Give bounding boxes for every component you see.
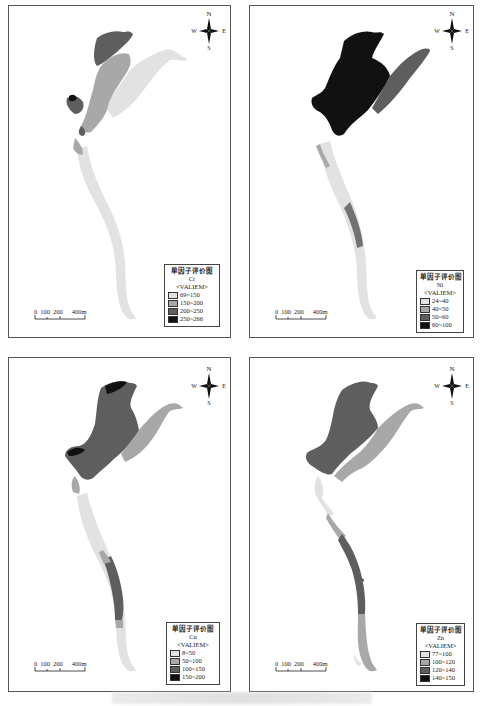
svg-text:N: N xyxy=(206,365,211,373)
svg-text:W: W xyxy=(434,28,440,34)
legend-class: 140~150 xyxy=(420,674,461,682)
svg-text:E: E xyxy=(465,28,469,34)
scale-bar: 0100200400m xyxy=(34,308,87,320)
legend-field: <VALIEM> xyxy=(420,642,461,650)
legend-element: Cr xyxy=(168,275,216,283)
svg-text:W: W xyxy=(191,383,197,389)
svg-text:E: E xyxy=(465,383,469,389)
legend-class: 50~100 xyxy=(170,657,216,665)
legend-class: 200~250 xyxy=(168,307,216,315)
legend-class: 40~50 xyxy=(420,305,460,313)
svg-text:W: W xyxy=(434,383,440,389)
legend-class: 50~60 xyxy=(420,313,460,321)
legend-element: Zn xyxy=(420,634,461,642)
svg-text:S: S xyxy=(450,45,453,51)
map-panel-ni: N W E S 单因子评价图 Ni <VALIEM> 24~40 40~50 5… xyxy=(249,5,474,338)
legend-cu: 单因子评价图 Cu <VALIEM> 8~50 50~100 100~150 1… xyxy=(166,622,220,685)
legend-title: 单因子评价图 xyxy=(420,273,460,281)
legend-cr: 单因子评价图 Cr <VALIEM> 69~150 150~200 200~25… xyxy=(164,264,220,327)
legend-ni: 单因子评价图 Ni <VALIEM> 24~40 40~50 50~60 60~… xyxy=(416,270,464,333)
legend-class: 100~150 xyxy=(170,665,216,673)
north-arrow-compass: N W E S xyxy=(191,9,227,51)
svg-text:E: E xyxy=(222,383,226,389)
north-arrow-compass: N W E S xyxy=(434,9,470,51)
legend-element: Cu xyxy=(170,633,216,641)
legend-title: 单因子评价图 xyxy=(168,267,216,275)
legend-class: 100~120 xyxy=(420,658,461,666)
svg-text:N: N xyxy=(449,365,454,373)
map-panel-cu: N W E S 单因子评价图 Cu <VALIEM> 8~50 50~100 1… xyxy=(8,357,231,692)
legend-title: 单因子评价图 xyxy=(170,625,216,633)
svg-text:E: E xyxy=(222,28,226,34)
scale-bar: 0100200400m xyxy=(34,660,87,672)
svg-text:N: N xyxy=(206,10,211,18)
legend-zn: 单因子评价图 Zn <VALIEM> 77~100 100~120 120~14… xyxy=(416,623,465,686)
legend-class: 150~200 xyxy=(168,299,216,307)
legend-class: 150~200 xyxy=(170,673,216,681)
legend-class: 77~100 xyxy=(420,650,461,658)
legend-field: <VALIEM> xyxy=(168,283,216,291)
svg-text:S: S xyxy=(207,400,210,406)
legend-class: 69~150 xyxy=(168,291,216,299)
legend-class: 250~266 xyxy=(168,315,216,323)
legend-field: <VALIEM> xyxy=(170,641,216,649)
legend-class: 24~40 xyxy=(420,297,460,305)
svg-text:W: W xyxy=(191,28,197,34)
legend-field: <VALIEM> xyxy=(420,289,460,297)
map-panel-zn: N W E S 单因子评价图 Zn <VALIEM> 77~100 100~12… xyxy=(249,357,474,692)
legend-class: 60~100 xyxy=(420,321,460,329)
svg-text:S: S xyxy=(450,400,453,406)
figure-caption xyxy=(112,692,372,704)
svg-text:S: S xyxy=(207,45,210,51)
north-arrow-compass: N W E S xyxy=(434,364,470,406)
north-arrow-compass: N W E S xyxy=(191,364,227,406)
legend-class: 120~140 xyxy=(420,666,461,674)
svg-text:N: N xyxy=(449,10,454,18)
map-panel-cr: N W E S 单因子评价图 Cr <VALIEM> 69~150 150~20… xyxy=(8,5,231,338)
legend-element: Ni xyxy=(420,281,460,289)
legend-title: 单因子评价图 xyxy=(420,626,461,634)
legend-class: 8~50 xyxy=(170,649,216,657)
scale-bar: 0100200400m xyxy=(275,308,328,320)
scale-bar: 0100200400m xyxy=(275,660,328,672)
